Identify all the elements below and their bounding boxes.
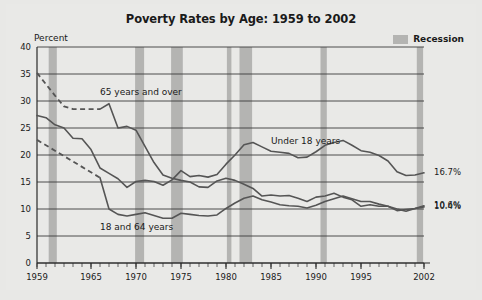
series-line-dashed xyxy=(37,73,100,109)
series-annotation: 18 and 64 years xyxy=(100,222,173,232)
series-line xyxy=(100,178,424,219)
y-tick-label: 25 xyxy=(13,123,31,133)
x-tick-label: 1965 xyxy=(71,272,111,282)
x-tick-label: 1985 xyxy=(251,272,291,282)
y-tick-label: 0 xyxy=(13,258,31,268)
y-tick-label: 40 xyxy=(13,42,31,52)
x-tick-label: 1990 xyxy=(296,272,336,282)
series-annotation: 65 years and over xyxy=(100,87,182,97)
y-tick-label: 10 xyxy=(13,204,31,214)
x-tick-label: 2002 xyxy=(404,272,444,282)
figure-panel: Poverty Rates by Age: 1959 to 2002 Perce… xyxy=(6,4,476,290)
series-line-dashed xyxy=(37,140,100,178)
x-tick-label: 1959 xyxy=(17,272,57,282)
series-line xyxy=(100,104,424,211)
series-end-label: 16.7% xyxy=(434,167,461,177)
plot-area xyxy=(6,4,476,290)
series-end-label: 10.4% xyxy=(434,201,461,211)
x-tick-label: 1980 xyxy=(206,272,246,282)
x-tick-label: 1970 xyxy=(116,272,156,282)
x-tick-label: 1995 xyxy=(341,272,381,282)
y-tick-label: 15 xyxy=(13,177,31,187)
figure-container: Poverty Rates by Age: 1959 to 2002 Perce… xyxy=(0,0,482,300)
y-tick-label: 30 xyxy=(13,96,31,106)
y-tick-label: 35 xyxy=(13,69,31,79)
series-annotation: Under 18 years xyxy=(271,136,340,146)
x-tick-label: 1975 xyxy=(161,272,201,282)
y-tick-label: 5 xyxy=(13,231,31,241)
y-tick-label: 20 xyxy=(13,150,31,160)
